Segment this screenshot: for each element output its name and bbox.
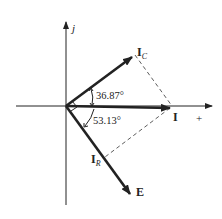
vertical-axis-label: j bbox=[70, 22, 75, 34]
phasor-diagram: j + 36.87° 53.13° IC I E IR bbox=[0, 0, 222, 219]
phasor-label-e: E bbox=[136, 185, 144, 199]
phasor-label-ic: IC bbox=[137, 45, 148, 61]
angle-label-upper: 36.87° bbox=[96, 90, 124, 101]
phasor-label-i: I bbox=[173, 110, 178, 124]
angle-arc-upper bbox=[91, 89, 93, 105]
phasor-label-ir: IR bbox=[91, 152, 101, 168]
horizontal-axis-label: + bbox=[196, 112, 202, 124]
dashed-line-ic-to-i bbox=[135, 55, 172, 106]
angle-label-lower: 53.13° bbox=[93, 115, 121, 126]
